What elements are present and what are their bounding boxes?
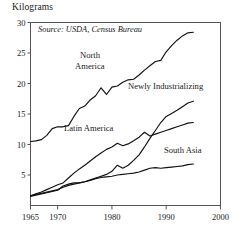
x-tick-label: 1970 xyxy=(49,212,66,222)
series-label-north-america-line1: North xyxy=(80,50,100,60)
series-line-south-asia xyxy=(31,164,194,196)
meat-consumption-line-chart: Kilograms 510152025301965197019801990200… xyxy=(0,0,247,238)
y-tick-label: 5 xyxy=(21,170,25,180)
x-tick-label: 1965 xyxy=(22,212,39,222)
series-line-latin-america xyxy=(31,123,194,196)
series-label-latin-america: Latin America xyxy=(64,123,113,133)
x-tick-label: 2000 xyxy=(212,212,229,222)
series-layer xyxy=(31,32,194,196)
source-annotation: Source: USDA, Census Bureau xyxy=(38,25,142,34)
y-tick-label: 15 xyxy=(17,109,26,119)
x-tick-label: 1980 xyxy=(103,212,120,222)
y-tick-label: 20 xyxy=(17,79,26,89)
axis-tick-labels-layer: 5101520253019651970198019902000 xyxy=(17,18,229,222)
axis-ticks-layer xyxy=(28,23,221,210)
series-label-south-asia: South Asia xyxy=(164,145,201,155)
y-tick-label: 10 xyxy=(17,140,26,150)
chart-canvas: 5101520253019651970198019902000 xyxy=(0,0,247,238)
series-label-newly-industrializing: Newly Industrializing xyxy=(128,81,203,91)
x-tick-label: 1990 xyxy=(158,212,175,222)
series-label-north-america-line2: America xyxy=(75,61,105,71)
y-tick-label: 30 xyxy=(17,18,26,28)
plot-frame xyxy=(31,23,221,206)
y-tick-label: 25 xyxy=(17,48,26,58)
